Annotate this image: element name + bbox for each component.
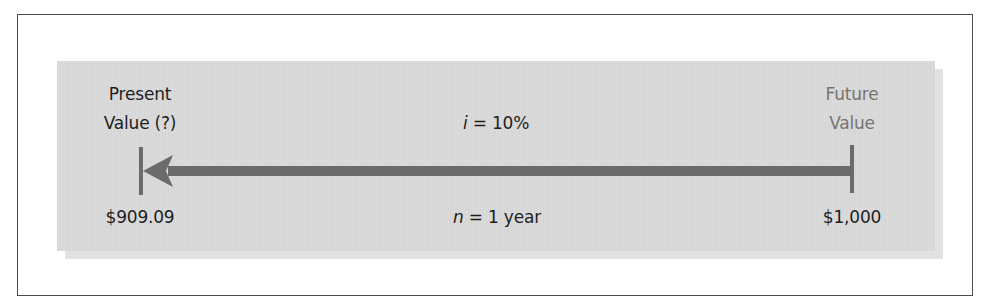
present-value-title-line2: Value (?): [104, 109, 177, 138]
period-value: = 1 year: [464, 207, 541, 227]
present-value-title-line1: Present: [104, 80, 177, 109]
future-value-label: Future Value: [826, 80, 879, 138]
future-value-title-line1: Future: [826, 80, 879, 109]
present-value-amount: $909.09: [106, 203, 175, 232]
interest-rate-label: i = 10%: [463, 109, 529, 138]
future-value-tick: [850, 145, 854, 193]
future-value-amount: $1,000: [823, 203, 881, 232]
future-value-title-line2: Value: [826, 109, 879, 138]
period-variable: n: [453, 207, 464, 227]
present-value-tick: [139, 147, 143, 195]
period-label: n = 1 year: [453, 203, 541, 232]
rate-value: = 10%: [467, 113, 529, 133]
present-value-label: Present Value (?): [104, 80, 177, 138]
